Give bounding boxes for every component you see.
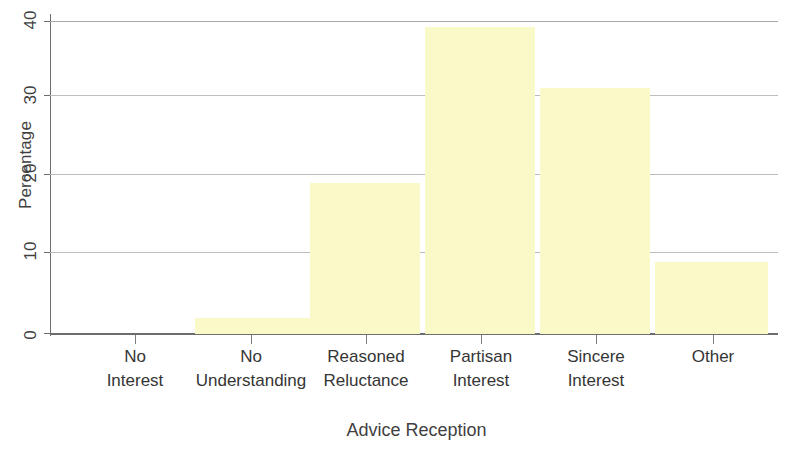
x-tick-mark-reasoned-reluctance <box>366 335 367 344</box>
bar-other[interactable] <box>655 262 768 334</box>
x-tick-mark-sincere-interest <box>596 335 597 344</box>
x-tick-mark-partisan-interest <box>481 335 482 344</box>
gridline-40 <box>50 21 778 22</box>
bar-chart: Percentage 0 10 20 30 40 No Interest No … <box>0 0 785 453</box>
gridline-30 <box>50 95 778 96</box>
gridline-20 <box>50 174 778 175</box>
x-tick-mark-other <box>713 335 714 344</box>
x-tick-label-other: Other <box>633 345 785 369</box>
y-tick-label-40: 40 <box>21 3 41 37</box>
bar-reasoned-reluctance[interactable] <box>310 183 420 334</box>
y-tick-label-10: 10 <box>21 234 41 268</box>
x-axis-title: Advice Reception <box>0 420 785 441</box>
x-axis-title-text: Advice Reception <box>346 420 486 440</box>
y-tick-label-0: 0 <box>21 318 41 352</box>
y-tick-label-30: 30 <box>21 78 41 112</box>
x-tick-mark-no-understanding <box>251 335 252 344</box>
y-tick-label-20: 20 <box>21 156 41 190</box>
x-tick-mark-no-interest <box>135 335 136 344</box>
bar-partisan-interest[interactable] <box>425 27 535 334</box>
plot-area <box>50 16 778 334</box>
bar-sincere-interest[interactable] <box>540 88 650 334</box>
bar-no-understanding[interactable] <box>195 318 310 334</box>
